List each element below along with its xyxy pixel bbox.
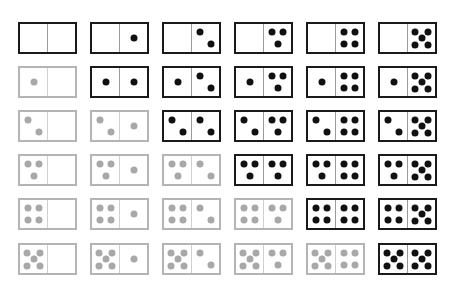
domino-2-5 bbox=[378, 110, 437, 142]
domino-half-right bbox=[192, 24, 219, 52]
domino-half-left bbox=[236, 245, 264, 273]
pip-icon bbox=[424, 72, 431, 79]
pip-icon bbox=[108, 205, 115, 212]
domino-half-right bbox=[120, 245, 147, 273]
pip-icon bbox=[396, 263, 403, 270]
pip-icon bbox=[340, 173, 347, 180]
pip-icon bbox=[424, 86, 431, 93]
pip-icon bbox=[424, 160, 431, 167]
domino-0-1 bbox=[90, 22, 149, 54]
pip-icon bbox=[384, 205, 391, 212]
pip-icon bbox=[97, 117, 104, 124]
pip-icon bbox=[108, 263, 115, 270]
pip-icon bbox=[96, 217, 103, 224]
domino-half-left bbox=[92, 24, 120, 52]
pip-icon bbox=[396, 161, 403, 168]
pip-icon bbox=[313, 117, 320, 124]
domino-4-5 bbox=[378, 198, 437, 230]
pip-icon bbox=[340, 41, 347, 48]
pip-icon bbox=[174, 256, 181, 263]
domino-half-left bbox=[236, 156, 264, 184]
domino-half-right bbox=[408, 245, 435, 273]
pip-icon bbox=[207, 173, 214, 180]
pip-icon bbox=[412, 86, 419, 93]
pip-icon bbox=[30, 79, 37, 86]
pip-icon bbox=[412, 116, 419, 123]
pip-icon bbox=[168, 205, 175, 212]
pip-icon bbox=[418, 35, 425, 42]
domino-4-0 bbox=[18, 198, 77, 230]
pip-icon bbox=[24, 217, 31, 224]
domino-half-right bbox=[192, 200, 219, 228]
pip-icon bbox=[108, 249, 115, 256]
pip-icon bbox=[352, 217, 359, 224]
domino-half-right bbox=[48, 156, 75, 184]
pip-icon bbox=[352, 41, 359, 48]
pip-icon bbox=[180, 263, 187, 270]
domino-half-left bbox=[20, 68, 48, 96]
pip-icon bbox=[168, 249, 175, 256]
domino-0-4 bbox=[306, 22, 365, 54]
pip-icon bbox=[352, 85, 359, 92]
pip-icon bbox=[312, 205, 319, 212]
pip-icon bbox=[168, 263, 175, 270]
domino-5-5 bbox=[378, 243, 437, 275]
domino-grid bbox=[0, 0, 457, 290]
domino-half-right bbox=[264, 200, 291, 228]
domino-5-4 bbox=[306, 243, 365, 275]
pip-icon bbox=[252, 217, 259, 224]
pip-icon bbox=[340, 205, 347, 212]
domino-half-left bbox=[20, 156, 48, 184]
pip-icon bbox=[340, 117, 347, 124]
domino-half-left bbox=[380, 24, 408, 52]
domino-half-left bbox=[20, 245, 48, 273]
domino-half-right bbox=[48, 112, 75, 140]
domino-4-2 bbox=[162, 198, 221, 230]
pip-icon bbox=[274, 173, 281, 180]
pip-icon bbox=[252, 205, 259, 212]
pip-icon bbox=[390, 79, 397, 86]
pip-icon bbox=[96, 249, 103, 256]
domino-1-1 bbox=[90, 66, 149, 98]
pip-icon bbox=[352, 29, 359, 36]
pip-icon bbox=[412, 160, 419, 167]
pip-icon bbox=[36, 161, 43, 168]
pip-icon bbox=[130, 167, 137, 174]
pip-icon bbox=[108, 217, 115, 224]
pip-icon bbox=[352, 262, 359, 269]
pip-icon bbox=[25, 117, 32, 124]
pip-icon bbox=[107, 129, 114, 136]
pip-icon bbox=[384, 217, 391, 224]
pip-icon bbox=[390, 256, 397, 263]
domino-half-right bbox=[408, 24, 435, 52]
domino-half-left bbox=[308, 156, 336, 184]
domino-2-1 bbox=[90, 110, 149, 142]
pip-icon bbox=[384, 161, 391, 168]
pip-icon bbox=[395, 129, 402, 136]
domino-half-right bbox=[192, 68, 219, 96]
domino-half-left bbox=[164, 245, 192, 273]
pip-icon bbox=[180, 205, 187, 212]
domino-half-left bbox=[380, 156, 408, 184]
pip-icon bbox=[340, 217, 347, 224]
domino-half-right bbox=[48, 200, 75, 228]
pip-icon bbox=[340, 29, 347, 36]
pip-icon bbox=[30, 256, 37, 263]
pip-icon bbox=[424, 218, 431, 225]
pip-icon bbox=[412, 72, 419, 79]
domino-half-right bbox=[336, 200, 363, 228]
pip-icon bbox=[424, 116, 431, 123]
pip-icon bbox=[396, 217, 403, 224]
domino-half-left bbox=[308, 24, 336, 52]
pip-icon bbox=[168, 161, 175, 168]
domino-half-right bbox=[336, 245, 363, 273]
pip-icon bbox=[280, 250, 287, 257]
pip-icon bbox=[207, 85, 214, 92]
domino-half-right bbox=[336, 24, 363, 52]
pip-icon bbox=[324, 249, 331, 256]
pip-icon bbox=[252, 161, 259, 168]
pip-icon bbox=[130, 256, 137, 263]
pip-icon bbox=[390, 173, 397, 180]
domino-half-right bbox=[264, 156, 291, 184]
pip-icon bbox=[280, 117, 287, 124]
